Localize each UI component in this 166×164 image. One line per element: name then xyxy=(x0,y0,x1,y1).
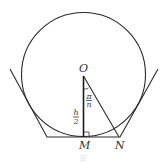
svg-text:2: 2 xyxy=(73,117,79,126)
angle-label-pi-over-n: π n xyxy=(86,92,93,109)
svg-text:h: h xyxy=(74,108,79,117)
point-label-N: N xyxy=(114,139,125,152)
figure-caption: 图 xyxy=(80,154,86,162)
segment-label-h-over-2: h 2 xyxy=(73,108,80,126)
svg-text:n: n xyxy=(87,100,92,109)
point-label-O: O xyxy=(79,62,88,75)
point-label-M: M xyxy=(78,139,91,152)
inscribed-circle-polygon-diagram: O M N π n h 2 图 xyxy=(0,0,166,164)
